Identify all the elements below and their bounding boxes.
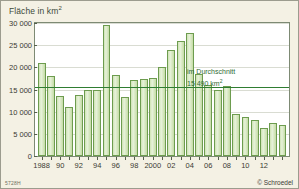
x-tick-label: 02 bbox=[167, 161, 175, 170]
bar bbox=[75, 95, 83, 156]
bar bbox=[130, 80, 138, 156]
x-tick-mark bbox=[181, 157, 182, 160]
x-tick-label: 04 bbox=[186, 161, 194, 170]
y-axis: 05 00010 00015 00020 00025 00030 000 bbox=[1, 22, 32, 157]
x-tick-mark bbox=[171, 157, 172, 160]
y-tick-mark bbox=[34, 45, 37, 46]
y-tick-mark bbox=[34, 156, 37, 157]
x-tick-label: 92 bbox=[74, 161, 82, 170]
chart-title: Fläche in km2 bbox=[9, 5, 62, 16]
bar bbox=[223, 86, 231, 156]
y-tick-mark bbox=[34, 67, 37, 68]
x-tick-mark bbox=[255, 157, 256, 160]
bar bbox=[84, 90, 92, 156]
catalog-code: 5728H bbox=[5, 180, 21, 186]
x-tick-label: 96 bbox=[112, 161, 120, 170]
x-tick-mark bbox=[79, 157, 80, 160]
x-tick-mark bbox=[116, 157, 117, 160]
y-tick-mark bbox=[34, 90, 37, 91]
x-tick-mark bbox=[282, 157, 283, 160]
chart-title-text: Fläche in km bbox=[9, 6, 58, 16]
y-tick-label: 0 bbox=[28, 152, 32, 161]
y-tick-mark bbox=[34, 134, 37, 135]
bar bbox=[56, 96, 64, 156]
average-line bbox=[35, 87, 289, 88]
x-tick-mark bbox=[106, 157, 107, 160]
bar bbox=[204, 85, 212, 156]
x-tick-mark bbox=[134, 157, 135, 160]
y-tick-label: 20 000 bbox=[9, 63, 32, 72]
bar bbox=[149, 78, 157, 156]
bar bbox=[103, 25, 111, 156]
average-label-superscript: 2 bbox=[220, 78, 223, 84]
average-line-label: im Durchschnitt 15 490 km2 bbox=[187, 68, 235, 88]
x-tick-label: 2000 bbox=[144, 161, 161, 170]
x-tick-mark bbox=[42, 157, 43, 160]
x-tick-label: 06 bbox=[204, 161, 212, 170]
chart-figure: Fläche in km2 05 00010 00015 00020 00025… bbox=[0, 0, 299, 189]
bar bbox=[167, 50, 175, 156]
average-label-line1: im Durchschnitt bbox=[187, 68, 235, 75]
y-tick-mark bbox=[34, 23, 37, 24]
copyright-notice: © Schroedel bbox=[257, 179, 293, 186]
x-tick-label: 12 bbox=[260, 161, 268, 170]
y-tick-mark bbox=[34, 112, 37, 113]
x-tick-label: 1988 bbox=[33, 161, 50, 170]
x-tick-mark bbox=[69, 157, 70, 160]
bar bbox=[251, 120, 259, 156]
x-tick-mark bbox=[227, 157, 228, 160]
y-tick-label: 10 000 bbox=[9, 107, 32, 116]
bar bbox=[65, 107, 73, 156]
chart-title-superscript: 2 bbox=[58, 5, 61, 11]
bar bbox=[93, 90, 101, 156]
x-tick-mark bbox=[236, 157, 237, 160]
bar bbox=[232, 114, 240, 156]
bar bbox=[140, 79, 148, 156]
bar bbox=[260, 128, 268, 156]
x-tick-mark bbox=[162, 157, 163, 160]
x-tick-mark bbox=[143, 157, 144, 160]
average-label-line2: 15 490 km bbox=[187, 80, 220, 87]
bar bbox=[279, 125, 287, 156]
bar bbox=[121, 97, 129, 156]
x-tick-label: 08 bbox=[223, 161, 231, 170]
bar bbox=[214, 90, 222, 157]
bar bbox=[269, 123, 277, 156]
x-tick-mark bbox=[218, 157, 219, 160]
x-tick-label: 94 bbox=[93, 161, 101, 170]
bar bbox=[177, 41, 185, 156]
bar bbox=[186, 33, 194, 156]
x-tick-label: 10 bbox=[241, 161, 249, 170]
bar-series bbox=[35, 23, 289, 156]
x-tick-mark bbox=[51, 157, 52, 160]
y-tick-label: 5 000 bbox=[13, 129, 32, 138]
plot-area: im Durchschnitt 15 490 km2 bbox=[34, 22, 290, 157]
x-tick-mark bbox=[273, 157, 274, 160]
y-tick-label: 30 000 bbox=[9, 19, 32, 28]
x-tick-mark bbox=[208, 157, 209, 160]
x-tick-mark bbox=[190, 157, 191, 160]
x-tick-label: 90 bbox=[56, 161, 64, 170]
y-tick-label: 15 000 bbox=[9, 85, 32, 94]
x-tick-mark bbox=[199, 157, 200, 160]
y-tick-label: 25 000 bbox=[9, 41, 32, 50]
x-tick-mark bbox=[88, 157, 89, 160]
x-tick-mark bbox=[153, 157, 154, 160]
bar bbox=[242, 117, 250, 156]
x-tick-mark bbox=[97, 157, 98, 160]
x-tick-label: 98 bbox=[130, 161, 138, 170]
bar bbox=[158, 67, 166, 156]
x-tick-mark bbox=[60, 157, 61, 160]
x-tick-mark bbox=[125, 157, 126, 160]
x-tick-mark bbox=[245, 157, 246, 160]
bar bbox=[38, 63, 46, 156]
x-tick-mark bbox=[264, 157, 265, 160]
